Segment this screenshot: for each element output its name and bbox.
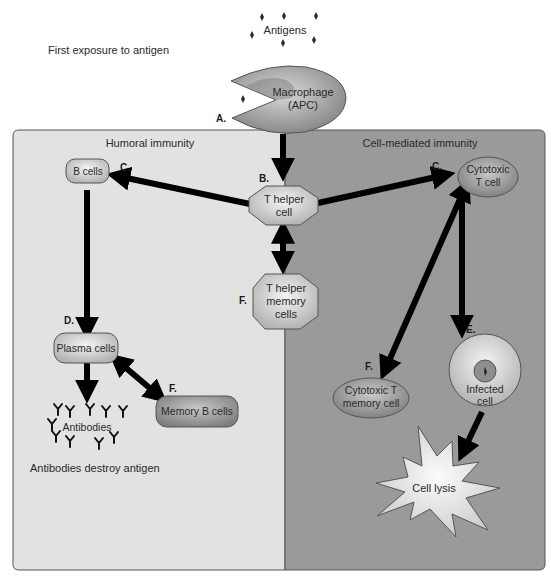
cytotoxic-t-cell-node: Cytotoxic T cell: [458, 157, 518, 197]
b-cells-node: B cells: [66, 159, 109, 183]
macrophage-label-line1: Macrophage: [272, 86, 333, 98]
step-f-cytotoxic-label: F.: [365, 361, 373, 372]
svg-text:memory: memory: [266, 295, 306, 307]
svg-text:T helper: T helper: [266, 282, 306, 294]
humoral-immunity-title: Humoral immunity: [106, 137, 195, 149]
t-helper-memory-node: T helper memory cells: [253, 274, 318, 329]
svg-text:Cytotoxic: Cytotoxic: [466, 163, 509, 175]
memory-b-cells-node: Memory B cells: [156, 396, 238, 427]
svg-text:Memory B cells: Memory B cells: [161, 405, 233, 417]
plasma-cells-node: Plasma cells: [54, 333, 118, 363]
antibodies-destroy-caption: Antibodies destroy antigen: [30, 462, 160, 474]
step-d-label: D.: [64, 315, 74, 326]
step-a-label: A.: [216, 113, 226, 124]
antibodies-label: Antibodies: [62, 421, 111, 433]
svg-text:memory cell: memory cell: [343, 397, 400, 409]
step-f-thelper-label: F.: [239, 295, 247, 306]
svg-text:Cell lysis: Cell lysis: [412, 482, 456, 494]
step-c-cell-mediated-label: C.: [432, 161, 442, 172]
step-e-label: E.: [466, 324, 476, 335]
svg-text:cells: cells: [275, 308, 298, 320]
cell-mediated-immunity-title: Cell-mediated immunity: [363, 137, 478, 149]
immunity-diagram: Humoral immunity Cell-mediated immunity …: [0, 0, 551, 576]
cytotoxic-t-memory-node: Cytotoxic T memory cell: [333, 378, 409, 418]
first-exposure-label: First exposure to antigen: [48, 44, 169, 56]
macrophage-apc: Macrophage (APC): [231, 66, 346, 133]
antigens-label: Antigens: [264, 24, 307, 36]
step-f-memoryb-label: F.: [169, 383, 177, 394]
svg-text:T helper: T helper: [264, 193, 304, 205]
step-b-label: B.: [259, 173, 269, 184]
svg-text:cell: cell: [276, 206, 293, 218]
svg-text:T cell: T cell: [476, 176, 501, 188]
svg-text:Infected: Infected: [466, 383, 504, 395]
macrophage-label-line2: (APC): [288, 99, 318, 111]
svg-text:B cells: B cells: [73, 166, 102, 177]
infected-cell-node: Infected cell: [449, 334, 521, 407]
svg-text:Cytotoxic T: Cytotoxic T: [345, 384, 398, 396]
t-helper-cell-node: T helper cell: [249, 186, 318, 225]
svg-text:Plasma cells: Plasma cells: [57, 342, 116, 354]
svg-text:cell: cell: [477, 395, 493, 407]
step-c-humoral-label: C.: [120, 162, 130, 173]
